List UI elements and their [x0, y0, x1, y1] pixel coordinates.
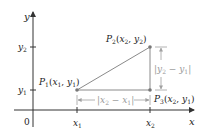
y-axis-label: y [23, 11, 30, 22]
point-p3 [148, 88, 152, 92]
x-axis-label: x [189, 116, 195, 127]
point-p3-label: P3(x2, y1) [153, 94, 194, 105]
hypotenuse-p1-p2 [77, 47, 150, 90]
point-p1 [75, 88, 79, 92]
y2-tick-label: y2 [17, 42, 27, 53]
vertical-distance-label: |y2 − y1| [154, 64, 191, 75]
point-p2 [148, 45, 152, 49]
point-p1-label: P1(x1, y1) [38, 77, 79, 88]
x1-tick-label: x1 [73, 118, 82, 129]
y1-tick-label: y1 [17, 85, 27, 96]
horizontal-distance-label: |x2 − x1| [97, 95, 134, 106]
point-p2-label: P2(x2, y2) [105, 34, 146, 45]
origin-label: 0 [24, 117, 30, 127]
distance-formula-diagram: y x 0 y2 y1 x1 x2 P1(x1, y1) P2(x2, y2) … [0, 0, 207, 136]
x2-tick-label: x2 [146, 118, 155, 129]
